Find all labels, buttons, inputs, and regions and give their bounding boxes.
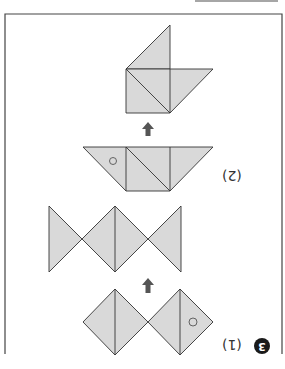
worksheet-page: (2) (1) 3 (0, 0, 285, 369)
part-label-1: (1) (222, 337, 242, 353)
arrow-up-icon (142, 278, 154, 293)
figure-canvas (0, 0, 285, 369)
shape-part2-original (83, 147, 213, 191)
part-label-2: (2) (222, 168, 242, 184)
arrow-up-icon (142, 122, 154, 136)
shape-part2-result (126, 25, 213, 113)
shape-part1-result (49, 206, 181, 272)
problem-number-badge: 3 (254, 338, 270, 354)
shape-part1-original (83, 289, 213, 355)
